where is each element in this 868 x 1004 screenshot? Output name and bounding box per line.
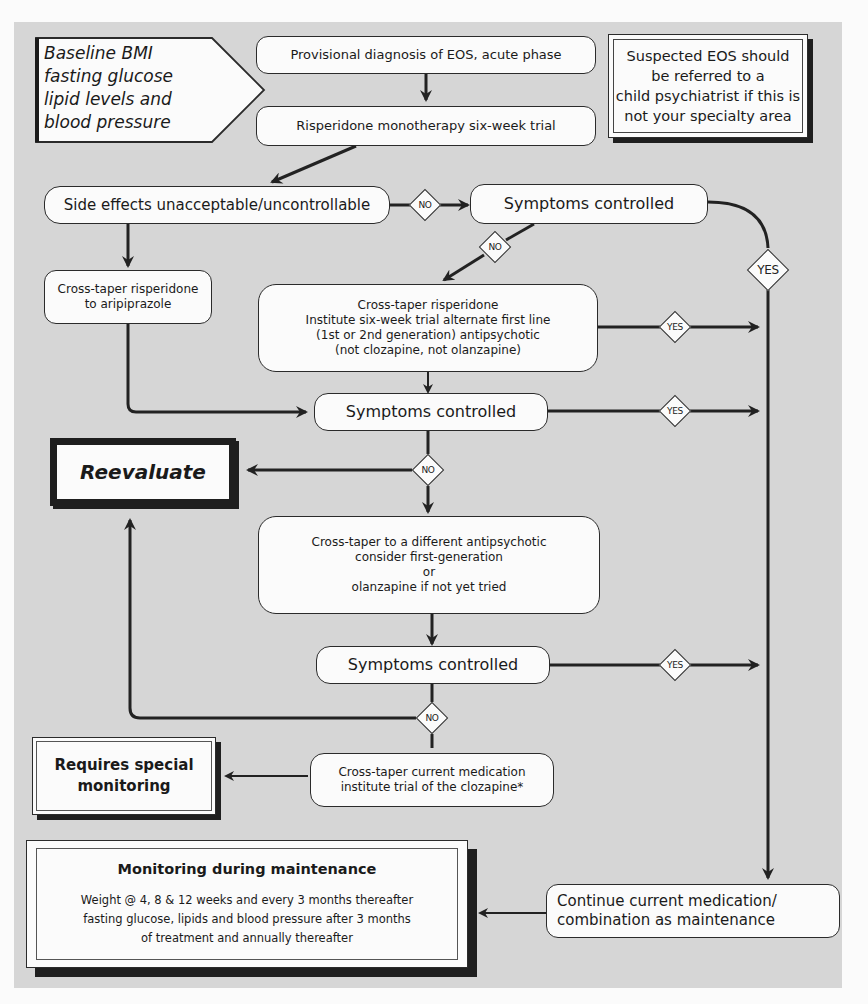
node-label: Provisional diagnosis of EOS, acute phas…: [290, 47, 561, 63]
node-label: (not clozapine, not olanzapine): [335, 343, 521, 358]
decision-symptoms3-no: NO: [417, 703, 447, 733]
decision-symptoms3-yes: YES: [660, 650, 690, 680]
node-label: Reevaluate: [80, 460, 206, 484]
referral-line: not your specialty area: [624, 106, 791, 126]
referral-line: Suspected EOS should: [627, 46, 790, 66]
node-label: Risperidone monotherapy six-week trial: [296, 118, 555, 134]
baseline-line: blood pressure: [44, 111, 173, 134]
decision-label: NO: [413, 455, 443, 485]
node-label: (1st or 2nd generation) antipsychotic: [316, 328, 540, 343]
baseline-line: Baseline BMI: [44, 42, 173, 65]
node-label: Side effects unacceptable/uncontrollable: [64, 196, 371, 215]
node-label: Cross-taper to a different antipsychotic: [312, 535, 547, 550]
node-label: Symptoms controlled: [348, 655, 518, 675]
node-side-effects: Side effects unacceptable/uncontrollable: [44, 186, 390, 224]
referral-line: child psychiatrist if this is: [616, 86, 800, 106]
node-provisional-diagnosis: Provisional diagnosis of EOS, acute phas…: [256, 36, 596, 74]
decision-symptoms1-yes: YES: [748, 250, 788, 290]
baseline-line: lipid levels and: [44, 88, 173, 111]
decision-side-effects-no: NO: [410, 190, 440, 220]
node-requires-special-monitoring: Requires special monitoring: [32, 737, 216, 815]
node-label: to aripiprazole: [85, 297, 172, 312]
decision-label: YES: [660, 312, 690, 342]
decision-label: NO: [417, 703, 447, 733]
monitoring-line: of treatment and annually thereafter: [141, 929, 353, 948]
node-symptoms-controlled-1: Symptoms controlled: [470, 184, 708, 224]
decision-symptoms1-no: NO: [480, 232, 510, 262]
node-risperidone-trial: Risperidone monotherapy six-week trial: [256, 106, 596, 146]
node-cross-taper-different: Cross-taper to a different antipsychotic…: [258, 516, 600, 614]
node-label: Cross-taper current medication: [338, 765, 525, 780]
decision-label: NO: [410, 190, 440, 220]
node-label: Continue current medication/: [557, 892, 777, 911]
node-symptoms-controlled-3: Symptoms controlled: [316, 646, 550, 684]
node-label: Requires special: [54, 755, 193, 776]
node-cross-taper-alternate: Cross-taper risperidone Institute six-we…: [258, 284, 598, 372]
monitoring-title: Monitoring during maintenance: [118, 861, 377, 877]
monitoring-line: fasting glucose, lipids and blood pressu…: [83, 910, 411, 929]
node-cross-taper-aripiprazole: Cross-taper risperidone to aripiprazole: [44, 270, 212, 324]
monitoring-line: Weight @ 4, 8 & 12 weeks and every 3 mon…: [81, 891, 413, 910]
baseline-line: fasting glucose: [44, 65, 173, 88]
node-label: combination as maintenance: [557, 911, 775, 930]
node-label: monitoring: [77, 776, 170, 797]
decision-label: NO: [480, 232, 510, 262]
decision-alternate-yes: YES: [660, 312, 690, 342]
decision-label: YES: [748, 250, 788, 290]
node-symptoms-controlled-2: Symptoms controlled: [314, 393, 548, 431]
node-label: institute trial of the clozapine*: [341, 780, 524, 795]
node-continue-maintenance: Continue current medication/ combination…: [546, 884, 840, 938]
referral-line: be referred to a: [651, 66, 764, 86]
node-label: olanzapine if not yet tried: [352, 580, 507, 595]
monitoring-during-maintenance: Monitoring during maintenance Weight @ 4…: [26, 840, 468, 968]
decision-symptoms2-no: NO: [413, 455, 443, 485]
node-label: Cross-taper risperidone: [58, 282, 199, 297]
referral-note: Suspected EOS should be referred to a ch…: [608, 34, 808, 138]
baseline-measurements-callout: Baseline BMI fasting glucose lipid level…: [34, 36, 266, 144]
decision-symptoms2-yes: YES: [660, 396, 690, 426]
node-clozapine-trial: Cross-taper current medication institute…: [310, 753, 554, 807]
node-label: Cross-taper risperidone: [358, 298, 499, 313]
node-label: consider first-generation: [355, 550, 503, 565]
decision-label: YES: [660, 396, 690, 426]
node-reevaluate: Reevaluate: [50, 438, 236, 506]
node-label: Symptoms controlled: [504, 194, 674, 214]
decision-label: YES: [660, 650, 690, 680]
node-label: Symptoms controlled: [346, 402, 516, 422]
node-label: Institute six-week trial alternate first…: [306, 313, 551, 328]
node-label: or: [423, 565, 435, 580]
